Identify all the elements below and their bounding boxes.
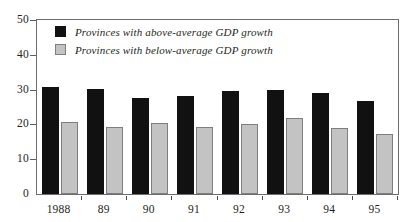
bar-above-94 [312, 93, 329, 194]
x-tick-label-92: 92 [233, 203, 245, 215]
x-tick-mark-1988 [81, 196, 82, 200]
x-tick-mark-93 [307, 196, 308, 200]
bar-chart: 01020304050 198889909192939495 Provinces… [0, 0, 410, 222]
legend-item-above: Provinces with above-average GDP growth [55, 24, 355, 39]
bar-above-91 [177, 96, 194, 194]
x-tick-label-94: 94 [323, 203, 335, 215]
x-axis: 198889909192939495 [36, 196, 399, 222]
y-tick-label-20: 20 [17, 119, 29, 131]
y-axis: 01020304050 [0, 0, 36, 222]
bar-above-92 [222, 91, 239, 194]
y-tick-label-40: 40 [17, 49, 29, 61]
bar-below-93 [286, 118, 303, 194]
bar-above-90 [132, 98, 149, 194]
y-tick-label-30: 30 [17, 84, 29, 96]
x-tick-label-89: 89 [98, 203, 110, 215]
y-tick-label-10: 10 [17, 153, 29, 165]
bar-above-95 [357, 101, 374, 194]
x-tick-mark-90 [171, 196, 172, 200]
legend-swatch-below-icon [55, 44, 66, 55]
x-tick-mark-95 [397, 196, 398, 200]
y-tick-label-50: 50 [17, 14, 29, 26]
bar-below-92 [241, 124, 258, 194]
x-tick-mark-94 [352, 196, 353, 200]
x-tick-mark-89 [126, 196, 127, 200]
x-tick-label-1988: 1988 [47, 203, 71, 215]
legend-swatch-above-icon [55, 26, 66, 37]
y-tick-label-0: 0 [23, 188, 29, 200]
bar-below-89 [106, 127, 123, 194]
legend-label-above: Provinces with above-average GDP growth [75, 26, 273, 38]
bar-below-94 [331, 128, 348, 194]
bar-above-1988 [42, 87, 59, 194]
bar-below-91 [196, 127, 213, 194]
bar-above-89 [87, 89, 104, 194]
x-tick-mark-92 [262, 196, 263, 200]
bar-below-95 [376, 134, 393, 194]
legend-item-below: Provinces with below-average GDP growth [55, 42, 355, 57]
legend-label-below: Provinces with below-average GDP growth [75, 44, 273, 56]
x-tick-label-93: 93 [278, 203, 290, 215]
x-tick-label-95: 95 [368, 203, 380, 215]
bar-below-1988 [61, 122, 78, 194]
x-tick-label-90: 90 [143, 203, 155, 215]
x-tick-mark-91 [217, 196, 218, 200]
x-tick-label-91: 91 [188, 203, 200, 215]
bar-above-93 [267, 90, 284, 194]
bar-below-90 [151, 123, 168, 194]
chart-legend: Provinces with above-average GDP growth … [55, 24, 355, 60]
